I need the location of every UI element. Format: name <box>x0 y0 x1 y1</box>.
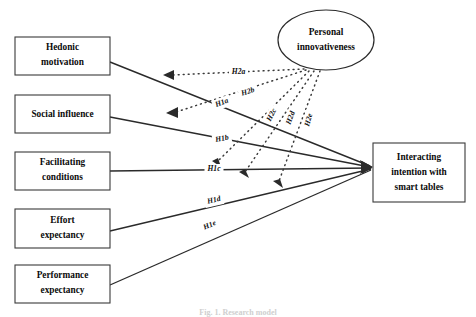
path-label-h2d: H2d <box>283 107 300 129</box>
node-label-performance-expectancy-line2: expectancy <box>41 285 85 295</box>
moderator-node-personal-innovativeness[interactable]: Personal innovativeness <box>278 10 374 70</box>
path-label-h2b-text: H2b <box>239 85 256 98</box>
node-label-effort-expectancy-line2: expectancy <box>41 230 85 240</box>
path-label-h1c: H1c <box>205 164 224 175</box>
predictor-node-effort-expectancy[interactable]: Effort expectancy <box>15 209 110 248</box>
arrowhead-h2d <box>239 169 249 178</box>
path-h1b-line <box>110 117 370 167</box>
predictor-node-social-influence[interactable]: Social influence <box>15 95 110 133</box>
predictor-node-facilitating-conditions[interactable]: Facilitating conditions <box>15 152 110 190</box>
node-label-effort-expectancy-line1: Effort <box>50 215 75 225</box>
node-label-hedonic-motivation-line2: motivation <box>41 57 85 67</box>
path-label-group: H2a H2b H2c H2d H2e H1a <box>199 66 317 234</box>
path-label-h2a-text: H2a <box>231 67 246 76</box>
path-label-h2e: H2e <box>301 109 317 130</box>
arrowhead-h2a <box>163 70 174 80</box>
path-h1c-line <box>110 168 370 171</box>
node-label-social-influence: Social influence <box>31 109 93 119</box>
path-label-h1a: H1a <box>211 94 233 111</box>
path-label-h1b: H1b <box>212 132 233 146</box>
arrowhead-h2e <box>273 179 283 188</box>
path-h1e-line <box>110 170 371 285</box>
predictor-node-performance-expectancy[interactable]: Performance expectancy <box>15 265 110 303</box>
node-label-personal-innovativeness-line2: innovativeness <box>297 42 355 52</box>
path-h1d-line <box>110 169 371 231</box>
node-label-performance-expectancy-line1: Performance <box>37 270 89 280</box>
figure-caption: Fig. 1. Research model <box>0 308 476 317</box>
path-h2e-line <box>279 71 320 181</box>
node-label-facilitating-conditions-line1: Facilitating <box>40 157 86 167</box>
node-label-outcome-line1: Interacting <box>397 152 442 162</box>
outcome-node-interacting-intention[interactable]: Interacting intention with smart tables <box>373 143 465 202</box>
node-label-outcome-line2: intention with <box>391 167 447 177</box>
path-h1a-line <box>110 62 370 166</box>
path-label-h2c: H2c <box>263 104 281 126</box>
node-label-facilitating-conditions-line2: conditions <box>42 172 83 182</box>
node-label-outcome-line3: smart tables <box>395 182 444 192</box>
path-label-h1e: H1e <box>199 217 221 235</box>
path-label-h2b: H2b <box>237 83 258 99</box>
node-label-personal-innovativeness-line1: Personal <box>309 27 344 37</box>
predictor-node-hedonic-motivation[interactable]: Hedonic motivation <box>15 37 110 75</box>
path-label-h1c-text: H1c <box>206 164 221 173</box>
path-label-h1d: H1d <box>203 193 224 208</box>
node-label-hedonic-motivation-line1: Hedonic <box>46 42 79 52</box>
path-label-h2a: H2a <box>229 66 248 77</box>
arrowhead-h2b <box>166 107 178 118</box>
